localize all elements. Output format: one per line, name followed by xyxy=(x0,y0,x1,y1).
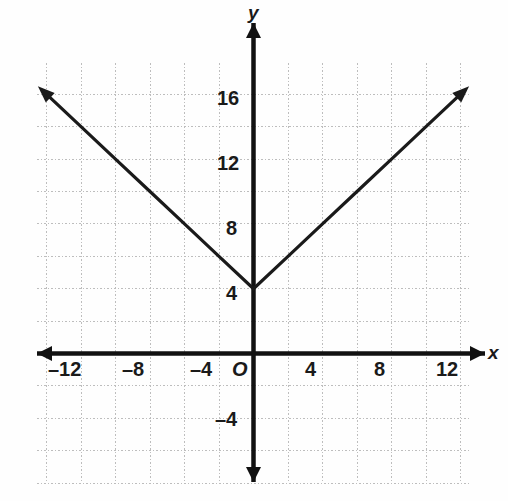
graph-figure: –12 –8 –4 4 8 12 16 12 8 4 –4 O x y xyxy=(0,0,508,501)
origin-label: O xyxy=(232,358,248,381)
x-tick-label--4: –4 xyxy=(190,358,212,381)
x-axis-right-arrowhead xyxy=(470,346,485,361)
y-axis-top-arrowhead xyxy=(246,23,261,38)
x-tick-label-4: 4 xyxy=(305,358,316,381)
y-tick-label-4: 4 xyxy=(226,282,237,305)
x-tick-label--8: –8 xyxy=(122,358,144,381)
y-axis-label: y xyxy=(248,2,259,24)
y-axis-bottom-arrowhead xyxy=(246,467,261,482)
y-tick-label-16: 16 xyxy=(217,87,239,110)
y-tick-label-8: 8 xyxy=(226,217,237,240)
x-tick-label-12: 12 xyxy=(436,358,458,381)
axis-lines xyxy=(37,23,485,482)
y-tick-label--4: –4 xyxy=(215,408,237,431)
x-tick-label--12: –12 xyxy=(48,358,81,381)
coordinate-plane-svg xyxy=(0,0,508,501)
x-tick-label-8: 8 xyxy=(374,358,385,381)
x-axis-label: x xyxy=(488,342,499,364)
y-tick-label-12: 12 xyxy=(217,152,239,175)
